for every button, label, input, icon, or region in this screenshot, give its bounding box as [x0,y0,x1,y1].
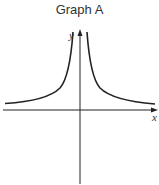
x-axis-label: x [151,111,157,123]
curve-right-branch [87,32,155,104]
curve-left-branch [5,32,73,104]
y-axis-label: y [68,29,74,41]
graph: y x [0,0,159,185]
y-axis-arrow-icon [78,29,83,36]
